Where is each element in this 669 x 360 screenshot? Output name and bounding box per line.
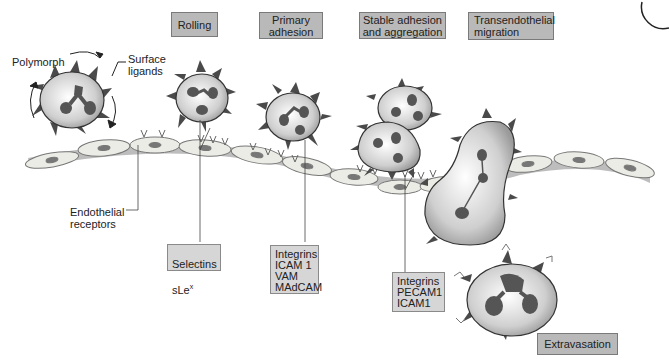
- extravasated-cell: [454, 244, 557, 340]
- stage-transendothelial-migration: Transendothelial migration: [468, 12, 554, 40]
- sle-text: sLe: [172, 284, 190, 296]
- surface-ligands-label: Surface ligands: [128, 53, 166, 77]
- primary-adhesion-cell: [256, 82, 332, 150]
- molecule-box-selectins: Selectins sLex: [167, 244, 221, 271]
- molecule-box-integrins-stable: Integrins PECAM1 ICAM1: [392, 272, 445, 312]
- polymorph-cell: [30, 60, 112, 136]
- stage-primary-adhesion: Primary adhesion: [259, 12, 323, 39]
- corner-circle-fragment: [641, 2, 669, 29]
- endothelial-receptors-label: Endothelial receptors: [70, 206, 124, 230]
- molecule-box-integrins-primary: Integrins ICAM 1 VAM MAdCAM: [270, 245, 319, 294]
- stage-rolling: Rolling: [171, 12, 218, 37]
- aggregated-cell-upper: [366, 78, 442, 130]
- polymorph-label: Polymorph: [12, 56, 65, 68]
- transmigrating-cell: [420, 108, 522, 245]
- stage-stable-adhesion: Stable adhesion and aggregation: [359, 12, 446, 39]
- leukocyte-extravasation-diagram: [0, 0, 669, 360]
- sle-superscript: x: [190, 283, 194, 290]
- stage-extravasation: Extravasation: [537, 333, 618, 355]
- rolling-cell: [166, 60, 236, 132]
- selectins-text: Selectins: [172, 258, 217, 270]
